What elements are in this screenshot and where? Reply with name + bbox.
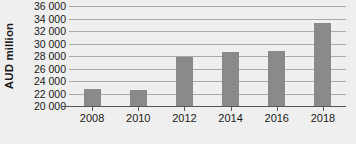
y-axis-tick-labels: 20 00022 00024 00026 00028 00030 00032 0… (18, 0, 68, 112)
bar (84, 89, 101, 106)
y-axis-tick-label: 28 000 (34, 50, 66, 62)
x-axis-tick-mark (138, 107, 139, 111)
x-axis-tick-label: 2010 (126, 112, 150, 124)
x-axis-tick-marks (69, 107, 346, 111)
x-axis-tick-mark (323, 107, 324, 111)
y-axis-tick-label: 26 000 (34, 63, 66, 75)
x-axis-tick-label: 2012 (172, 112, 196, 124)
bars-layer (69, 6, 346, 106)
x-axis-tick-label: 2018 (311, 112, 335, 124)
y-axis-tick-label: 30 000 (34, 38, 66, 50)
y-axis-tick-label: 34 000 (34, 13, 66, 25)
x-axis-tick-labels: 200820102012201420162018 (69, 112, 346, 132)
y-axis-tick-label: 36 000 (34, 0, 66, 12)
x-axis-tick-label: 2016 (265, 112, 289, 124)
bar (176, 57, 193, 106)
x-axis-tick-mark (184, 107, 185, 111)
bar-chart: AUD million 20 00022 00024 00026 00028 0… (0, 0, 356, 144)
bar (314, 23, 331, 106)
y-axis-tick-label: 22 000 (34, 88, 66, 100)
bar (222, 52, 239, 106)
x-axis-tick-mark (231, 107, 232, 111)
bar (268, 51, 285, 106)
x-axis-tick-label: 2014 (218, 112, 242, 124)
y-axis-tick-label: 24 000 (34, 75, 66, 87)
y-axis-tick-label: 32 000 (34, 25, 66, 37)
x-axis-tick-label: 2008 (80, 112, 104, 124)
y-axis-title: AUD million (0, 0, 18, 112)
x-axis-tick-mark (92, 107, 93, 111)
bar (130, 90, 147, 106)
y-axis-title-label: AUD million (3, 23, 15, 89)
x-axis-tick-mark (277, 107, 278, 111)
